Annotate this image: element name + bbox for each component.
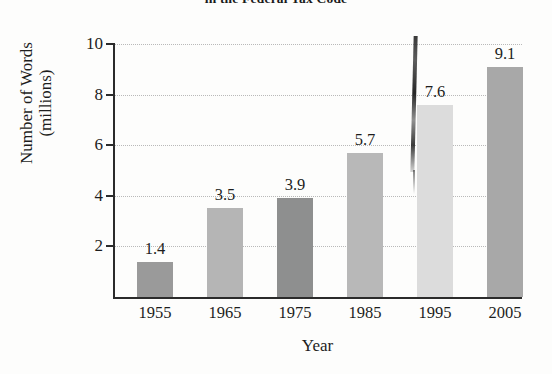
- bar-value-label: 9.1: [495, 44, 516, 64]
- x-axis-tick-label: 1985: [347, 303, 383, 323]
- bar-group: 3.5: [207, 44, 243, 297]
- y-axis-tick: [106, 144, 115, 146]
- bar-group: 1.4: [137, 44, 173, 297]
- bar-group: 7.6: [417, 44, 453, 297]
- bar: [487, 67, 523, 297]
- bar-chart-figure: in the Federal Tax Code Number of Words …: [0, 0, 552, 374]
- bar-group: 5.7: [347, 44, 383, 297]
- bar: [207, 208, 243, 297]
- bar-value-label: 1.4: [145, 239, 166, 259]
- y-axis-title-line-1: Number of Words: [17, 0, 36, 223]
- x-axis-tick-label: 2005: [487, 303, 523, 323]
- bar: [347, 153, 383, 297]
- gridline: [115, 44, 522, 45]
- bar-group: 3.9: [277, 44, 313, 297]
- bar-value-label: 3.9: [285, 175, 306, 195]
- bar-group: 9.1: [487, 44, 523, 297]
- gridline: [115, 95, 522, 96]
- y-axis-tick-label: 8: [95, 85, 104, 105]
- gridline: [115, 246, 522, 247]
- bar-value-label: 7.6: [425, 82, 446, 102]
- gridline: [115, 145, 522, 146]
- y-axis-title: Number of Words (millions): [17, 0, 55, 223]
- bar: [137, 262, 173, 297]
- y-axis-line: [113, 44, 115, 297]
- x-axis-title: Year: [113, 336, 522, 356]
- y-axis-tick-label: 2: [95, 236, 104, 256]
- y-axis-tick: [106, 94, 115, 96]
- y-axis-title-line-2: (millions): [36, 0, 55, 223]
- gridline: [115, 196, 522, 197]
- plot-area: 108642 1.43.53.95.77.69.1 19551965197519…: [113, 44, 522, 297]
- bar-value-label: 5.7: [355, 130, 376, 150]
- y-axis-tick: [106, 43, 115, 45]
- y-axis-tick-label: 10: [86, 34, 103, 54]
- x-axis-tick-label: 1965: [207, 303, 243, 323]
- x-axis-tick-label: 1975: [277, 303, 313, 323]
- chart-title: in the Federal Tax Code: [0, 0, 552, 7]
- x-axis-tick-label: 1995: [417, 303, 453, 323]
- y-axis-tick: [106, 245, 115, 247]
- x-axis-line: [113, 297, 522, 299]
- bar: [417, 105, 453, 297]
- y-axis-tick-label: 4: [95, 186, 104, 206]
- bar: [277, 198, 313, 297]
- y-axis-tick: [106, 195, 115, 197]
- y-axis-tick-label: 6: [95, 135, 104, 155]
- bar-value-label: 3.5: [215, 185, 236, 205]
- x-axis-tick-label: 1955: [137, 303, 173, 323]
